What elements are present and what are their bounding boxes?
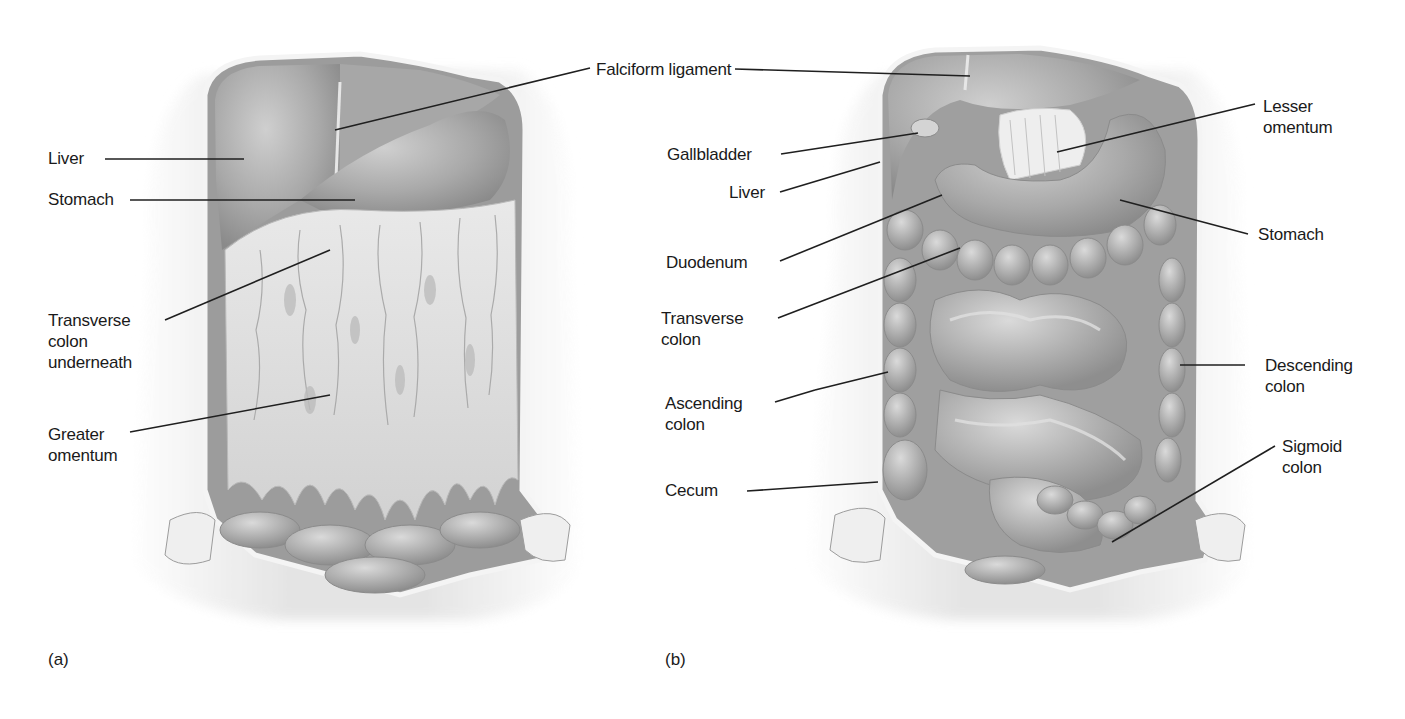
label-stomach-a: Stomach: [48, 189, 114, 210]
label-transverse-colon-b: Transverse colon: [661, 308, 743, 350]
panel-letter-b: (b): [665, 650, 686, 670]
label-lesser-omentum: Lesser omentum: [1263, 96, 1332, 138]
label-stomach-b: Stomach: [1258, 224, 1324, 245]
label-falciform-ligament: Falciform ligament: [596, 59, 731, 80]
label-sigmoid-colon: Sigmoid colon: [1282, 436, 1342, 478]
label-transverse-colon-underneath: Transverse colon underneath: [48, 310, 132, 373]
label-descending-colon: Descending colon: [1265, 355, 1353, 397]
label-liver-b: Liver: [729, 182, 765, 203]
panel-b-illustration: [805, 48, 1255, 620]
label-gallbladder: Gallbladder: [667, 144, 752, 165]
panel-letter-a: (a): [48, 650, 69, 670]
label-cecum: Cecum: [665, 480, 718, 501]
label-duodenum: Duodenum: [666, 252, 748, 273]
label-greater-omentum: Greater omentum: [48, 424, 117, 466]
label-liver-a: Liver: [48, 148, 84, 169]
label-ascending-colon: Ascending colon: [665, 393, 743, 435]
anatomy-figure: [0, 0, 1405, 719]
panel-a-illustration: [130, 54, 585, 620]
